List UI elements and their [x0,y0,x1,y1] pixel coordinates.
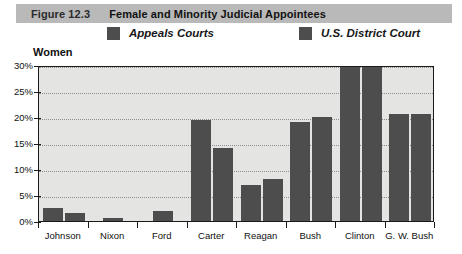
y-axis-tick-label: 30% [3,60,33,71]
bar [103,218,123,221]
bar [362,66,382,221]
y-axis-tick-mark [34,92,41,93]
x-axis-tick-label: Clinton [345,230,375,241]
plot-area [38,66,434,222]
y-axis-tick-label: 10% [3,164,33,175]
bar-chart: 0%5%10%15%20%25%30% JohnsonNixonFordCart… [0,0,462,254]
x-axis-tick-mark [385,222,386,228]
y-axis-tick-mark [34,144,41,145]
bar [241,185,261,221]
bar [153,211,173,221]
x-axis-tick-mark [335,222,336,228]
bar [43,208,63,221]
x-axis-tick-label: Ford [152,230,172,241]
x-axis-tick-label: Nixon [100,230,124,241]
bar [411,114,431,221]
bar [389,114,409,221]
bar [290,122,310,221]
x-axis-tick-label: Bush [299,230,321,241]
bar [213,148,233,221]
y-axis-tick-label: 5% [3,190,33,201]
x-axis-tick-label: Carter [198,230,224,241]
x-axis-tick-mark [38,222,39,228]
x-axis-tick-mark [434,222,435,228]
y-axis-tick-mark [34,66,41,67]
bar [340,66,360,221]
bar [191,120,211,221]
bar [312,117,332,221]
y-axis-tick-label: 25% [3,86,33,97]
x-axis-tick-mark [187,222,188,228]
x-axis-tick-label: Reagan [244,230,277,241]
x-axis-tick-label: Johnson [45,230,81,241]
x-axis-tick-mark [236,222,237,228]
x-axis-tick-label: G. W. Bush [385,230,433,241]
y-axis-tick-mark [34,196,41,197]
y-axis-tick-mark [34,170,41,171]
x-axis-tick-mark [88,222,89,228]
y-axis-tick-label: 15% [3,138,33,149]
x-axis-tick-mark [286,222,287,228]
y-axis-tick-mark [34,118,41,119]
bar [263,179,283,221]
bar [65,213,85,221]
y-axis-tick-label: 20% [3,112,33,123]
y-axis-tick-label: 0% [3,216,33,227]
x-axis-tick-mark [137,222,138,228]
